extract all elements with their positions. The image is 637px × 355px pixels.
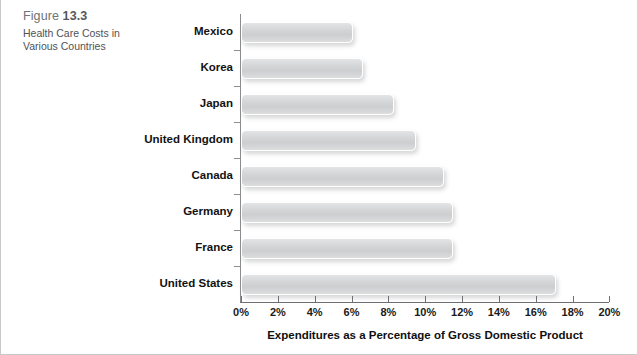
figure-container: Figure 13.3 Health Care Costs in Various…: [0, 0, 637, 355]
category-label-mexico: Mexico: [19, 25, 233, 37]
x-axis-tick-label: 10%: [405, 306, 445, 318]
x-axis-tick-label: 12%: [442, 306, 482, 318]
x-axis-tick-label: 8%: [368, 306, 408, 318]
category-label-japan: Japan: [19, 97, 233, 109]
x-axis-tick: [462, 296, 463, 302]
category-label-united-states: United States: [19, 277, 233, 289]
x-axis-tick-label: 16%: [516, 306, 556, 318]
x-axis-tick-label: 20%: [589, 306, 629, 318]
bar-mexico: [241, 22, 353, 43]
category-label-canada: Canada: [19, 169, 233, 181]
x-axis-line: [240, 302, 609, 303]
y-axis-tick: [234, 266, 241, 267]
bar-germany: [241, 202, 453, 223]
x-axis-tick-label: 14%: [479, 306, 519, 318]
x-axis-tick: [388, 296, 389, 302]
bar-korea: [241, 58, 363, 79]
x-axis-tick-label: 4%: [295, 306, 335, 318]
x-axis-tick: [536, 296, 537, 302]
category-label-united-kingdom: United Kingdom: [19, 133, 233, 145]
category-label-germany: Germany: [19, 205, 233, 217]
x-axis-title: Expenditures as a Percentage of Gross Do…: [240, 329, 610, 341]
category-labels: MexicoKoreaJapanUnited KingdomCanadaGerm…: [15, 0, 233, 355]
x-axis-tick: [315, 296, 316, 302]
x-axis-tick: [278, 296, 279, 302]
y-axis-tick: [234, 230, 241, 231]
x-axis-tick: [499, 296, 500, 302]
x-axis-tick: [609, 296, 610, 302]
bar-canada: [241, 166, 444, 187]
y-axis-tick: [234, 194, 241, 195]
x-axis-tick-label: 18%: [553, 306, 593, 318]
bar-chart-plot: MexicoKoreaJapanUnited KingdomCanadaGerm…: [1, 0, 637, 355]
y-axis-tick: [234, 158, 241, 159]
x-axis-tick-label: 0%: [221, 306, 261, 318]
bar-japan: [241, 94, 394, 115]
x-axis-tick-label: 6%: [332, 306, 372, 318]
x-axis-tick-label: 2%: [258, 306, 298, 318]
y-axis-tick: [234, 122, 241, 123]
y-axis-tick: [234, 50, 241, 51]
x-axis-tick: [573, 296, 574, 302]
x-axis-tick: [425, 296, 426, 302]
bar-united-kingdom: [241, 130, 416, 151]
y-axis-tick: [234, 86, 241, 87]
bar-united-states: [241, 274, 556, 295]
x-axis-tick: [352, 296, 353, 302]
category-label-korea: Korea: [19, 61, 233, 73]
bar-france: [241, 238, 453, 259]
category-label-france: France: [19, 241, 233, 253]
x-axis-tick: [241, 296, 242, 302]
